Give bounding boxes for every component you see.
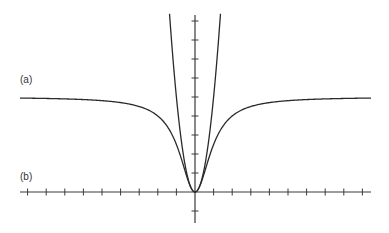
curve-b-label: (b) <box>20 171 32 182</box>
plot-canvas <box>0 0 389 233</box>
curve-a-label: (a) <box>20 74 32 85</box>
